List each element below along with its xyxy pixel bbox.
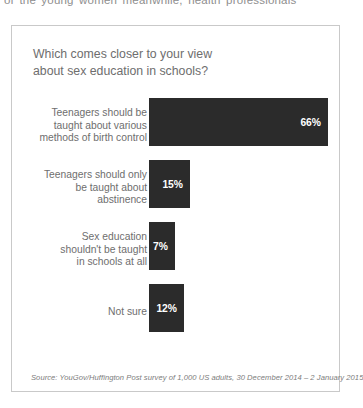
bar-not-sure: 12% bbox=[149, 284, 184, 332]
chart-container: Which comes closer to your view about se… bbox=[11, 25, 340, 392]
bar-label-line: Not sure bbox=[15, 306, 147, 319]
article-text-snippet: of the young women meanwhile, health pro… bbox=[4, 0, 348, 6]
bar-row: Teenagers should be taught about various… bbox=[12, 98, 341, 160]
bar-chart-plot-area: Teenagers should be taught about various… bbox=[12, 98, 341, 346]
bar-abstinence: 15% bbox=[149, 160, 190, 208]
bar-label: Sex education shouldn't be taught in sch… bbox=[15, 231, 147, 269]
bar-value: 66% bbox=[300, 117, 328, 128]
bar-value: 12% bbox=[156, 303, 184, 314]
bar-label-line: Teenagers should only bbox=[15, 169, 147, 182]
bar-row: Teenagers should only be taught about ab… bbox=[12, 160, 341, 222]
bar-label-line: in schools at all bbox=[15, 256, 147, 269]
bar-value: 15% bbox=[162, 179, 190, 190]
bar-label-line: abstinence bbox=[15, 194, 147, 207]
chart-title-line-1: Which comes closer to your view bbox=[33, 46, 313, 63]
bar-label-line: taught about various bbox=[15, 120, 147, 133]
bar-row: Not sure 12% bbox=[12, 284, 341, 346]
bar-birth-control: 66% bbox=[149, 98, 328, 146]
bar-no-sex-education: 7% bbox=[149, 222, 175, 270]
bar-label-line: be taught about bbox=[15, 182, 147, 195]
chart-source-note: Source: YouGov/Huffington Post survey of… bbox=[31, 373, 363, 382]
bar-value: 7% bbox=[153, 241, 175, 252]
bar-row: Sex education shouldn't be taught in sch… bbox=[12, 222, 341, 284]
bar-label-line: Teenagers should be bbox=[15, 107, 147, 120]
bar-label: Teenagers should be taught about various… bbox=[15, 107, 147, 145]
bar-label: Teenagers should only be taught about ab… bbox=[15, 169, 147, 207]
chart-title: Which comes closer to your view about se… bbox=[33, 46, 313, 79]
bar-label-line: Sex education bbox=[15, 231, 147, 244]
chart-title-line-2: about sex education in schools? bbox=[33, 63, 313, 80]
bar-label-line: methods of birth control bbox=[15, 132, 147, 145]
bar-label-line: shouldn't be taught bbox=[15, 244, 147, 257]
bar-label: Not sure bbox=[15, 306, 147, 319]
